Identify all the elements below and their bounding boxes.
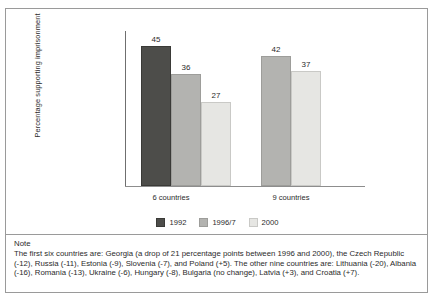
bar-2000-6-countries[interactable] [201,102,231,186]
bar-slot: 37 [291,31,321,186]
bar-value-label: 42 [261,45,291,54]
bar-slot: 27 [201,31,231,186]
legend-entry-2000: 2000 [249,218,279,227]
bar-1996-7-6-countries[interactable] [171,74,201,186]
bar-slot: 45 [141,31,171,186]
legend-label: 1996/7 [212,218,235,227]
legend-label: 2000 [262,218,279,227]
bar-slot: 42 [261,31,291,186]
bar-value-label: 27 [201,91,231,100]
x-tick-label-9-countries: 9 countries [246,193,336,202]
plot-area: 45 36 27 42 37 [125,31,365,186]
y-axis-line [125,31,126,186]
legend-label: 1992 [169,218,186,227]
legend-swatch-icon [249,218,258,227]
legend-swatch-icon [156,218,165,227]
bar-value-label: 36 [171,63,201,72]
bar-1992-6-countries[interactable] [141,46,171,186]
bar-slot: 36 [171,31,201,186]
note-panel: Note The first six countries are: Georgi… [6,235,427,278]
figure-frame: Percentage supporting imprisonment 45 36… [5,8,428,293]
note-heading: Note [14,239,419,248]
legend-entry-1996-7: 1996/7 [199,218,235,227]
note-body: The first six countries are: Georgia (a … [14,249,419,278]
bar-1996-7-9-countries[interactable] [261,56,291,186]
bar-2000-9-countries[interactable] [291,71,321,186]
bar-value-label: 45 [141,35,171,44]
x-tick-label-6-countries: 6 countries [126,193,216,202]
y-axis-title: Percentage supporting imprisonment [33,1,42,151]
legend-swatch-icon [199,218,208,227]
x-axis-line [125,186,365,187]
bar-value-label: 37 [291,60,321,69]
chart-legend: 1992 1996/7 2000 [6,218,429,227]
chart-panel: Percentage supporting imprisonment 45 36… [6,9,427,234]
legend-entry-1992: 1992 [156,218,186,227]
